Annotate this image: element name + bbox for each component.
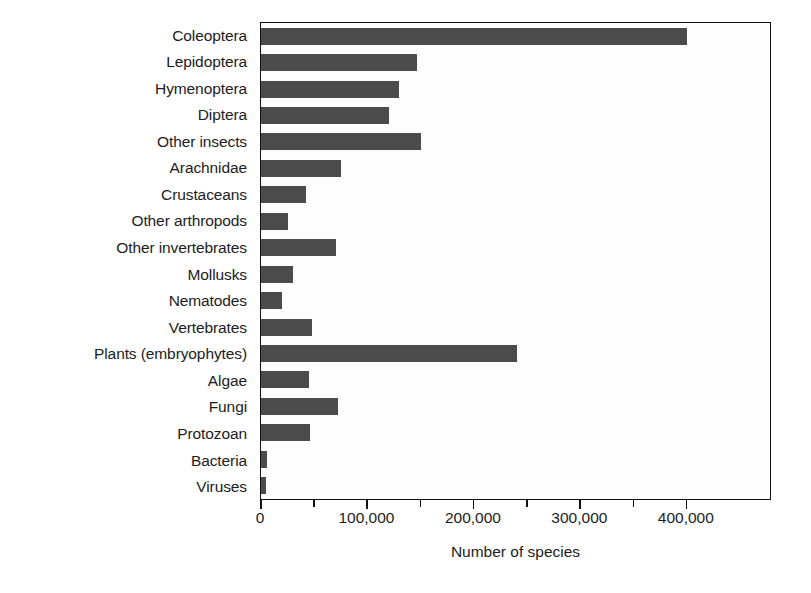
x-tick [526, 500, 528, 507]
bar [261, 266, 293, 283]
x-tick [633, 500, 635, 507]
bar-row [261, 472, 770, 498]
x-tick-label: 400,000 [658, 510, 714, 526]
category-label: Other insects [0, 128, 254, 155]
category-label: Bacteria [0, 447, 254, 474]
x-tick-label: 100,000 [338, 510, 394, 526]
bar-row [261, 155, 770, 181]
category-label: Plants (embryophytes) [0, 341, 254, 368]
x-axis-tick-labels: 0100,000200,000300,000400,000 [0, 510, 811, 534]
bar [261, 292, 282, 309]
x-tick [579, 500, 581, 509]
bar-row [261, 393, 770, 419]
x-tick [420, 500, 422, 507]
bar [261, 54, 417, 71]
bars-layer [261, 23, 770, 499]
category-label: Vertebrates [0, 314, 254, 341]
bar-row [261, 340, 770, 366]
x-tick [686, 500, 688, 509]
bar [261, 186, 306, 203]
bar-row [261, 446, 770, 472]
category-label: Coleoptera [0, 22, 254, 49]
x-tick-label: 300,000 [551, 510, 607, 526]
bar [261, 424, 310, 441]
bar [261, 398, 338, 415]
bar-row [261, 182, 770, 208]
bar [261, 107, 389, 124]
category-axis: ColeopteraLepidopteraHymenopteraDipteraO… [0, 22, 254, 500]
category-label: Lepidoptera [0, 49, 254, 76]
category-label: Nematodes [0, 288, 254, 315]
bar [261, 451, 267, 468]
bar-row [261, 208, 770, 234]
category-label: Other invertebrates [0, 235, 254, 262]
category-label: Protozoan [0, 420, 254, 447]
x-tick-label: 0 [256, 510, 265, 526]
bar-row [261, 314, 770, 340]
bar-row [261, 367, 770, 393]
x-tick [473, 500, 475, 509]
bar [261, 477, 266, 494]
bar-row [261, 129, 770, 155]
category-label: Other arthropods [0, 208, 254, 235]
bar-row [261, 76, 770, 102]
x-tick-label: 200,000 [445, 510, 501, 526]
category-label: Diptera [0, 102, 254, 129]
category-label: Algae [0, 367, 254, 394]
bar [261, 371, 309, 388]
category-label: Crustaceans [0, 181, 254, 208]
bar-row [261, 235, 770, 261]
bar-row [261, 287, 770, 313]
bar [261, 319, 312, 336]
category-label: Fungi [0, 394, 254, 421]
bar [261, 133, 421, 150]
bar [261, 239, 336, 256]
x-tick [260, 500, 262, 509]
x-axis-ticks [260, 500, 771, 509]
bar-row [261, 23, 770, 49]
bar [261, 81, 399, 98]
category-label: Mollusks [0, 261, 254, 288]
x-tick [313, 500, 315, 507]
x-tick [366, 500, 368, 509]
bar-row [261, 102, 770, 128]
bar-row [261, 49, 770, 75]
bar [261, 213, 288, 230]
category-label: Arachnidae [0, 155, 254, 182]
bar [261, 160, 341, 177]
bar [261, 28, 687, 45]
category-label: Hymenoptera [0, 75, 254, 102]
x-axis-title: Number of species [260, 543, 771, 561]
bar-row [261, 420, 770, 446]
plot-area [260, 22, 771, 500]
category-label: Viruses [0, 474, 254, 501]
bar-row [261, 261, 770, 287]
bar [261, 345, 517, 362]
species-bar-chart: ColeopteraLepidopteraHymenopteraDipteraO… [0, 0, 811, 593]
